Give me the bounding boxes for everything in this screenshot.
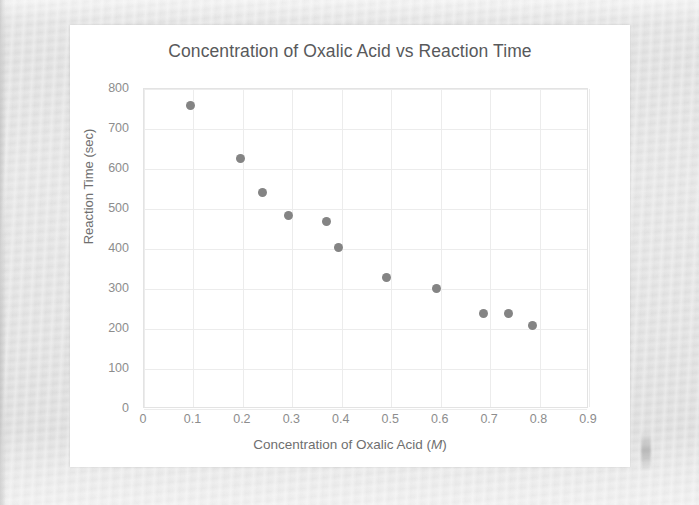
x-tick-label: 0.5 xyxy=(382,412,399,426)
x-tick-label: 0 xyxy=(140,412,147,426)
y-tick-label: 100 xyxy=(108,361,129,375)
gridline-horizontal xyxy=(144,329,587,330)
gridline-vertical xyxy=(292,89,293,407)
data-point xyxy=(382,273,391,282)
gridline-vertical xyxy=(243,89,244,407)
scan-left-edge-shadow xyxy=(0,0,6,505)
x-axis-title: Concentration of Oxalic Acid (M) xyxy=(70,437,630,452)
y-tick-label: 700 xyxy=(108,121,129,135)
y-tick-label: 800 xyxy=(108,81,129,95)
gridline-horizontal xyxy=(144,169,587,170)
x-tick-label: 0.6 xyxy=(431,412,448,426)
data-point xyxy=(432,284,441,293)
x-tick-label: 0.9 xyxy=(579,412,596,426)
data-point xyxy=(504,309,513,318)
gridline-vertical xyxy=(490,89,491,407)
gridline-vertical xyxy=(144,89,145,407)
gridline-vertical xyxy=(589,89,590,407)
x-axis-tick-labels: 00.10.20.30.40.50.60.70.80.9 xyxy=(143,412,588,432)
gridline-horizontal xyxy=(144,249,587,250)
y-axis-tick-labels: 0100200300400500600700800 xyxy=(70,88,136,408)
gridline-horizontal xyxy=(144,289,587,290)
gridline-horizontal xyxy=(144,129,587,130)
gridline-vertical xyxy=(441,89,442,407)
x-tick-label: 0.7 xyxy=(480,412,497,426)
data-point xyxy=(479,309,488,318)
x-tick-label: 0.4 xyxy=(332,412,349,426)
gridline-horizontal xyxy=(144,209,587,210)
data-point xyxy=(284,211,293,220)
gridline-horizontal xyxy=(144,89,587,90)
y-tick-label: 500 xyxy=(108,201,129,215)
gridline-horizontal xyxy=(144,409,587,410)
y-tick-label: 600 xyxy=(108,161,129,175)
gridline-vertical xyxy=(540,89,541,407)
x-axis-unit-symbol: M xyxy=(431,437,442,452)
gridline-vertical xyxy=(391,89,392,407)
y-tick-label: 400 xyxy=(108,241,129,255)
x-tick-label: 0.1 xyxy=(184,412,201,426)
x-tick-label: 0.2 xyxy=(233,412,250,426)
x-tick-label: 0.3 xyxy=(283,412,300,426)
y-tick-label: 200 xyxy=(108,321,129,335)
x-axis-title-suffix: ) xyxy=(442,437,447,452)
chart-title: Concentration of Oxalic Acid vs Reaction… xyxy=(70,41,630,62)
scan-smudge-mark xyxy=(641,432,651,470)
plot-area xyxy=(143,88,588,408)
data-point xyxy=(334,243,343,252)
y-tick-label: 0 xyxy=(122,401,129,415)
gridline-vertical xyxy=(193,89,194,407)
y-tick-label: 300 xyxy=(108,281,129,295)
data-point xyxy=(258,188,267,197)
chart-card: Concentration of Oxalic Acid vs Reaction… xyxy=(70,25,630,467)
data-point xyxy=(236,154,245,163)
gridline-horizontal xyxy=(144,369,587,370)
data-point xyxy=(186,101,195,110)
x-tick-label: 0.8 xyxy=(530,412,547,426)
x-axis-title-prefix: Concentration of Oxalic Acid ( xyxy=(253,437,431,452)
data-point xyxy=(322,217,331,226)
